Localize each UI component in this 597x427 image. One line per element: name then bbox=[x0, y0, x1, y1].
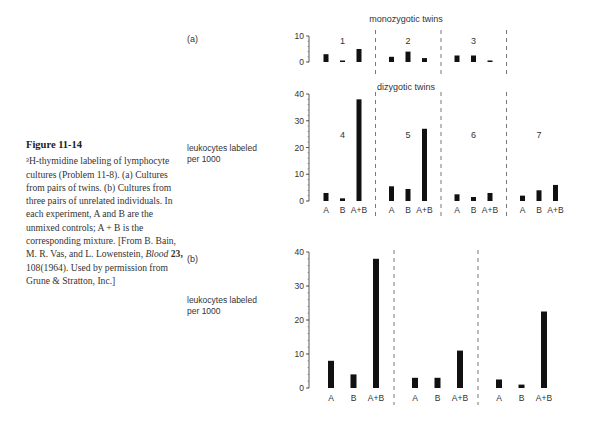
category-label: A bbox=[454, 205, 460, 215]
bar bbox=[357, 49, 362, 62]
category-label: A+B bbox=[416, 205, 433, 215]
bar bbox=[471, 56, 476, 63]
category-label: B bbox=[405, 205, 411, 215]
category-label: A bbox=[389, 205, 395, 215]
category-label: A bbox=[520, 205, 526, 215]
y-axis-label-b: leukocytes labeled bbox=[187, 295, 257, 305]
y-axis-label-a: leukocytes labeled bbox=[187, 143, 257, 153]
category-label: B bbox=[519, 393, 525, 403]
y-tick-label: 20 bbox=[295, 143, 305, 153]
y-tick-label: 10 bbox=[295, 349, 305, 359]
bar bbox=[537, 190, 542, 201]
bar bbox=[340, 61, 345, 63]
group-number: 5 bbox=[405, 130, 410, 140]
category-label: A bbox=[412, 393, 418, 403]
y-tick-label: 10 bbox=[295, 31, 305, 41]
y-tick-label: 40 bbox=[295, 89, 305, 99]
bar bbox=[389, 57, 394, 62]
group-number: 1 bbox=[340, 36, 345, 46]
category-label: B bbox=[340, 205, 346, 215]
group-number: 7 bbox=[536, 130, 541, 140]
bar bbox=[412, 378, 418, 388]
bar bbox=[324, 193, 329, 201]
bar bbox=[455, 56, 460, 63]
bar bbox=[351, 374, 357, 388]
category-label: A+B bbox=[536, 393, 553, 403]
panel-label-a: (a) bbox=[187, 34, 198, 44]
bar bbox=[422, 58, 427, 62]
y-tick-label: 30 bbox=[295, 281, 305, 291]
bar bbox=[455, 194, 460, 201]
chart-title: dizygotic twins bbox=[377, 82, 436, 92]
category-label: B bbox=[351, 393, 357, 403]
y-tick-label: 0 bbox=[299, 57, 304, 67]
bar bbox=[520, 196, 525, 201]
bar bbox=[471, 197, 476, 201]
category-label: B bbox=[435, 393, 441, 403]
y-tick-label: 30 bbox=[295, 116, 305, 126]
bar bbox=[488, 61, 493, 63]
y-tick-label: 10 bbox=[295, 169, 305, 179]
category-label: A bbox=[328, 393, 334, 403]
category-label: B bbox=[471, 205, 477, 215]
category-label: A bbox=[323, 205, 329, 215]
bar bbox=[340, 198, 345, 201]
group-number: 3 bbox=[471, 36, 476, 46]
bar bbox=[328, 361, 334, 388]
category-label: A bbox=[496, 393, 502, 403]
y-tick-label: 0 bbox=[299, 196, 304, 206]
panel-label-b: (b) bbox=[187, 254, 198, 264]
bar bbox=[406, 189, 411, 201]
chart-title: monozygotic twins bbox=[369, 14, 443, 24]
bar bbox=[357, 99, 362, 201]
bar bbox=[553, 185, 558, 201]
bar bbox=[406, 52, 411, 62]
y-tick-label: 20 bbox=[295, 315, 305, 325]
group-number: 6 bbox=[471, 130, 476, 140]
bar bbox=[488, 193, 493, 201]
bar bbox=[422, 129, 427, 201]
bar bbox=[496, 380, 502, 389]
category-label: A+B bbox=[368, 393, 385, 403]
category-label: A+B bbox=[452, 393, 469, 403]
category-label: A+B bbox=[482, 205, 499, 215]
category-label: A+B bbox=[351, 205, 368, 215]
category-label: A+B bbox=[547, 205, 564, 215]
chart-group: 010monozygotic twins123010203040dizygoti… bbox=[295, 14, 564, 405]
group-number: 4 bbox=[340, 130, 345, 140]
y-axis-label-b-line2: per 1000 bbox=[187, 306, 221, 316]
bar bbox=[457, 351, 463, 388]
group-number: 2 bbox=[405, 36, 410, 46]
y-tick-label: 0 bbox=[299, 383, 304, 393]
bar bbox=[373, 259, 379, 388]
y-tick-label: 40 bbox=[295, 247, 305, 257]
y-axis-label-a-line2: per 1000 bbox=[187, 154, 221, 164]
bar bbox=[389, 186, 394, 201]
bar bbox=[435, 378, 441, 388]
figure-charts: (a) (b) leukocytes labeled per 1000 leuk… bbox=[0, 0, 597, 427]
bar bbox=[519, 385, 525, 388]
bar bbox=[324, 54, 329, 62]
category-label: B bbox=[536, 205, 542, 215]
bar bbox=[541, 312, 547, 389]
